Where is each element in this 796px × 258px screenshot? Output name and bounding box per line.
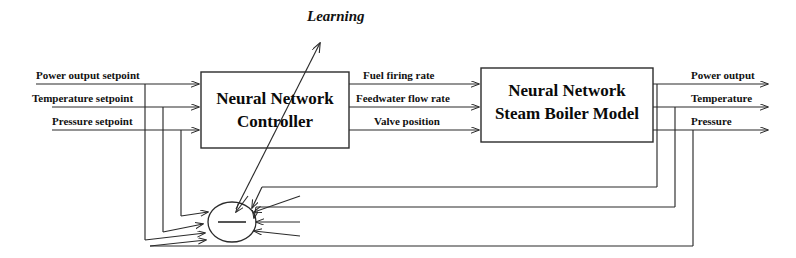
plant-block-line2: Steam Boiler Model <box>481 103 653 126</box>
signal-label-valve-position: Valve position <box>374 116 440 127</box>
signal-label-fuel-firing-rate: Fuel firing rate <box>363 70 434 81</box>
diagram-lines <box>0 0 796 258</box>
signal-label-feedwater-flow-rate: Feedwater flow rate <box>356 93 450 104</box>
learning-label: Learning <box>307 8 365 25</box>
input-label-pressure-setpoint: Pressure setpoint <box>52 116 133 127</box>
controller-block-line2: Controller <box>201 111 349 134</box>
output-label-temperature: Temperature <box>691 93 752 104</box>
output-label-pressure: Pressure <box>691 116 732 127</box>
input-label-power-output-setpoint: Power output setpoint <box>36 70 140 81</box>
plant-block-label: Neural Network Steam Boiler Model <box>481 80 653 126</box>
block-diagram-canvas: Learning Power output setpoint Temperatu… <box>0 0 796 258</box>
output-label-power-output: Power output <box>691 70 755 81</box>
plant-block-line1: Neural Network <box>481 80 653 103</box>
controller-block-label: Neural Network Controller <box>201 88 349 134</box>
input-label-temperature-setpoint: Temperature setpoint <box>32 93 133 104</box>
controller-block-line1: Neural Network <box>201 88 349 111</box>
